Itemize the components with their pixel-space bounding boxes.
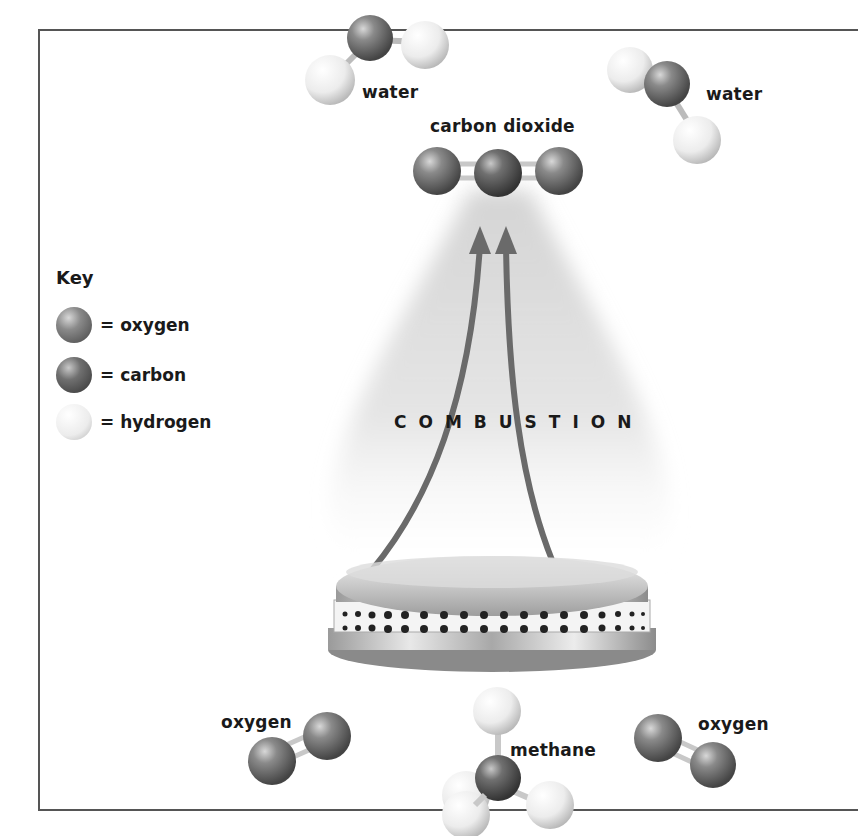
oxygen-label-left: oxygen [221, 712, 292, 732]
oxygen-atom-icon [56, 307, 92, 343]
key-item-carbon: = carbon [56, 357, 186, 393]
oxygen-label-right: oxygen [698, 714, 769, 734]
carbon-dioxide-label: carbon dioxide [430, 116, 575, 136]
hydrogen-atom-icon [56, 404, 92, 440]
key-item-label: = hydrogen [100, 412, 211, 432]
carbon-atom-icon [56, 357, 92, 393]
methane-label: methane [510, 740, 596, 760]
key-item-label: = carbon [100, 365, 186, 385]
water-molecule-right [607, 47, 721, 164]
gas-burner [328, 556, 656, 672]
key-title: Key [56, 267, 94, 288]
key-item-label: = oxygen [100, 315, 190, 335]
water-label-left: water [362, 82, 418, 102]
key-item-oxygen: = oxygen [56, 307, 190, 343]
combustion-label: COMBUSTION [394, 412, 643, 432]
key-item-hydrogen: = hydrogen [56, 404, 211, 440]
carbon-dioxide-molecule [413, 147, 583, 197]
methane-molecule [442, 687, 574, 836]
water-label-right: water [706, 84, 762, 104]
